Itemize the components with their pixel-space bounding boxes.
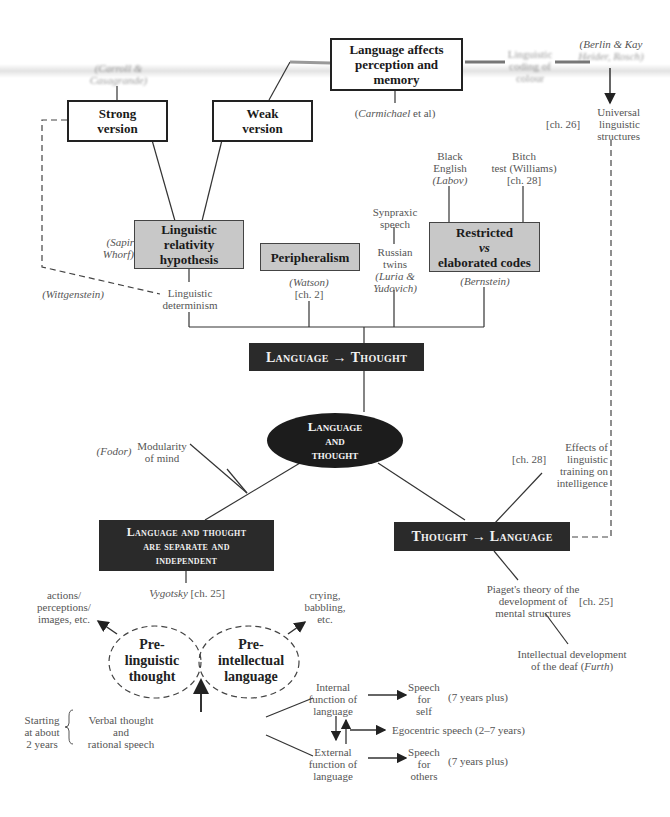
external-function: External function of language <box>300 746 366 782</box>
seven-years-plus-others: (7 years plus) <box>448 755 508 767</box>
carmichael-citation: (Carmichael et al) <box>345 107 445 119</box>
synpraxic-speech: Synpraxic speech <box>370 206 420 230</box>
effects-of-training: Effects of linguistic training on intell… <box>548 441 608 489</box>
starting-at-2-years: Starting at about 2 years <box>18 714 66 750</box>
peripheralism-box: Peripheralism <box>260 243 360 271</box>
fodor-citation: (Fodor) <box>94 445 134 457</box>
verbal-thought: Verbal thought and rational speech <box>76 714 166 750</box>
strong-version-box: Strongversion <box>67 100 168 142</box>
actions-perceptions: actions/ perceptions/ images, etc. <box>28 589 100 625</box>
piaget-theory: Piaget's theory of the development of me… <box>478 583 588 619</box>
universal-chapter: [ch. 26] <box>546 118 580 130</box>
speech-for-others: Speech for others <box>404 746 444 782</box>
speech-for-self: Speech for self <box>404 681 444 717</box>
watson-citation: (Watson) [ch. 2] <box>285 276 333 300</box>
prelinguistic-thought: Pre- linguistic thought <box>112 637 192 685</box>
language-to-thought-box: Language → Thought <box>249 343 424 371</box>
crying-babbling: crying, babbling, etc. <box>300 589 350 625</box>
seven-years-plus-self: (7 years plus) <box>448 691 508 703</box>
language-and-thought-center: Languageandthought <box>267 413 403 468</box>
black-english: Black English (Labov) <box>425 150 475 186</box>
linguistic-determinism: Linguistic determinism <box>158 287 222 311</box>
russian-twins: Russian twins (Luria & Yudovich) <box>366 246 424 294</box>
wittgenstein-citation: (Wittgenstein) <box>38 288 108 300</box>
bernstein-citation: (Bernstein) <box>455 275 515 287</box>
restricted-elaborated-box: Restrictedvselaborated codes <box>429 222 540 272</box>
linguistic-relativity-box: Linguisticrelativityhypothesis <box>134 220 244 269</box>
universal-structures: Universal linguistic structures <box>580 106 640 142</box>
berlin-kay-citation: (Berlin & Kay Heider, Rosch) <box>572 38 650 62</box>
weak-version-box: Weakversion <box>212 100 313 142</box>
carroll-citation: (Carroll & Casagrande) <box>86 62 151 86</box>
piaget-chapter: [ch. 25] <box>579 595 613 607</box>
internal-function: Internal function of language <box>300 681 366 717</box>
sapir-whorf-citation: (Sapir Whorf) <box>94 236 134 260</box>
modularity-of-mind: Modularity of mind <box>134 440 190 464</box>
language-affects-box: Language affectsperception andmemory <box>330 38 463 91</box>
preintellectual-language: Pre- intellectual language <box>206 637 296 685</box>
intellectual-development-deaf: Intellectual development of the deaf (Fu… <box>514 648 630 672</box>
bitch-test: Bitch test (Williams) [ch. 28] <box>488 150 560 186</box>
egocentric-speech: Egocentric speech (2–7 years) <box>392 724 525 736</box>
separate-independent-box: Language and thoughtare separate andinde… <box>99 520 274 571</box>
thought-to-language-box: Thought → Language <box>394 522 570 551</box>
linguistic-coding-colour: Linguistic coding of colour <box>502 48 558 84</box>
vygotsky-citation: Vygotsky [ch. 25] <box>146 587 228 599</box>
effects-chapter: [ch. 28] <box>512 453 546 465</box>
